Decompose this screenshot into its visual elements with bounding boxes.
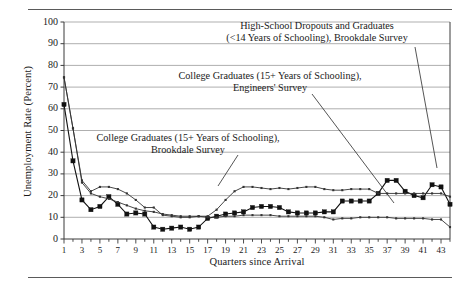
data-point [314, 186, 316, 188]
data-point [368, 216, 370, 218]
data-point [395, 217, 397, 219]
data-point [62, 102, 66, 106]
data-point [234, 215, 236, 217]
data-point [368, 188, 370, 190]
series-line [64, 104, 450, 229]
data-point [422, 192, 424, 194]
data-point [350, 217, 352, 219]
data-point [225, 215, 227, 217]
series-0 [62, 102, 452, 231]
data-point [278, 187, 280, 189]
data-point [332, 218, 334, 220]
data-point [90, 190, 92, 192]
data-point [134, 211, 138, 215]
data-point [125, 212, 129, 216]
data-point [234, 190, 236, 192]
data-point [332, 189, 334, 191]
data-point [242, 214, 244, 216]
data-point [269, 214, 271, 216]
data-point [90, 192, 92, 194]
data-point [268, 204, 272, 208]
data-point [179, 225, 183, 229]
data-point [287, 188, 289, 190]
data-point [277, 205, 281, 209]
data-point [323, 188, 325, 190]
y-tick-label: 60 [18, 102, 58, 113]
data-point [259, 204, 263, 208]
annotation-line: Engineers' Survey [141, 82, 399, 94]
data-point [260, 214, 262, 216]
data-point [250, 205, 254, 209]
x-tick-label: 43 [431, 245, 451, 255]
data-point [63, 76, 65, 78]
data-point [350, 188, 352, 190]
annotation-line: College Graduates (15+ Years of Schoolin… [72, 132, 304, 144]
data-point [386, 216, 388, 218]
data-point [296, 215, 298, 217]
data-point [287, 215, 289, 217]
data-point [431, 192, 433, 194]
y-tick-label: 90 [18, 37, 58, 48]
x-axis-title: Quarters since Arrival [64, 256, 450, 267]
data-point [98, 204, 102, 208]
data-point [81, 179, 83, 181]
data-point [135, 199, 137, 201]
data-point [108, 198, 110, 200]
data-point [126, 192, 128, 194]
data-point [99, 196, 101, 198]
data-point [341, 189, 343, 191]
data-point [305, 186, 307, 188]
leader-line [218, 155, 238, 186]
data-point [197, 225, 201, 229]
data-point [448, 202, 452, 206]
data-point [189, 216, 191, 218]
data-point [440, 192, 442, 194]
data-point [278, 215, 280, 217]
data-point [171, 215, 173, 217]
data-point [377, 192, 379, 194]
annotation-line: Brookdale Survey [72, 144, 304, 156]
data-point [395, 192, 397, 194]
data-point [135, 208, 137, 210]
y-tick-label: 100 [18, 16, 58, 27]
data-point [216, 216, 218, 218]
data-point [404, 192, 406, 194]
data-point [385, 178, 389, 182]
data-point [340, 199, 344, 203]
data-point [440, 218, 442, 220]
data-point [117, 201, 119, 203]
x-tick-marks [64, 239, 450, 244]
data-point [260, 187, 262, 189]
data-point [161, 227, 165, 231]
data-point [413, 192, 415, 194]
leader-line [312, 94, 394, 203]
data-point [349, 199, 353, 203]
y-tick-label: 80 [18, 59, 58, 70]
y-tick-label: 10 [18, 211, 58, 222]
data-point [422, 217, 424, 219]
data-point [341, 217, 343, 219]
data-point [431, 218, 433, 220]
data-point [449, 196, 451, 198]
data-point [421, 196, 425, 200]
annotation-college-grads-brookdale: College Graduates (15+ Years of Schoolin… [72, 132, 304, 155]
data-point [269, 188, 271, 190]
data-point [207, 215, 209, 217]
data-point [251, 214, 253, 216]
data-point [413, 217, 415, 219]
annotation-line: (<14 Years of Schooling), Brookdale Surv… [183, 32, 451, 44]
data-point [331, 210, 335, 214]
data-point [304, 211, 308, 215]
data-point [305, 215, 307, 217]
data-point [323, 216, 325, 218]
data-point [404, 217, 406, 219]
data-point [89, 208, 93, 212]
y-tick-label: 30 [18, 167, 58, 178]
data-point [314, 215, 316, 217]
data-point [439, 185, 443, 189]
y-tick-label: 70 [18, 81, 58, 92]
y-tick-label: 20 [18, 189, 58, 200]
data-point [162, 214, 164, 216]
data-point [242, 186, 244, 188]
data-point [359, 216, 361, 218]
